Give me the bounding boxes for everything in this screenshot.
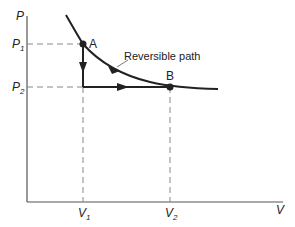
y-axis-label: P: [16, 9, 24, 23]
pv-diagram: A B Reversible path P V P1 P2 V1 V2: [0, 0, 295, 227]
down-arrow-icon: [79, 62, 87, 73]
right-arrow-icon: [117, 83, 129, 91]
p1-tick-label: P1: [12, 37, 24, 53]
point-a-marker: [80, 41, 87, 48]
v2-tick-label: V2: [165, 206, 178, 222]
point-b-marker: [167, 84, 174, 91]
p2-tick-label: P2: [12, 80, 25, 96]
point-b-label: B: [166, 69, 174, 83]
v1-tick-label: V1: [78, 206, 90, 222]
curve-label: Reversible path: [124, 50, 200, 62]
point-a-label: A: [89, 37, 97, 51]
x-axis-label: V: [276, 203, 285, 217]
